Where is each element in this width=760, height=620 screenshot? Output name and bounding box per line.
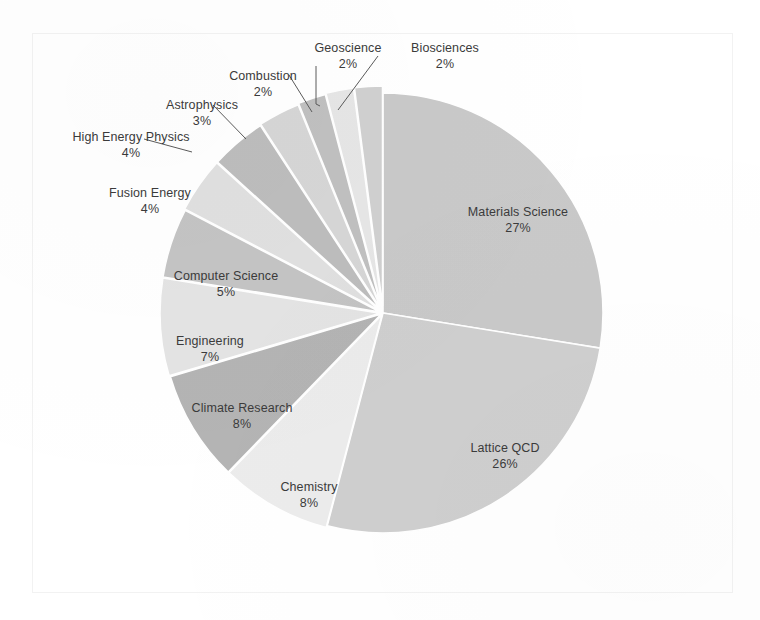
pie-label-percent: 5% <box>158 284 294 300</box>
pie-label-fusion-energy: Fusion Energy4% <box>92 185 208 217</box>
pie-label-climate-research: Climate Research8% <box>172 400 312 432</box>
pie-label-name: Lattice QCD <box>450 440 560 456</box>
pie-label-percent: 8% <box>172 416 312 432</box>
pie-label-astrophysics: Astrophysics3% <box>150 97 254 129</box>
pie-label-name: Climate Research <box>172 400 312 416</box>
pie-label-percent: 4% <box>92 201 208 217</box>
pie-label-combustion: Combustion2% <box>215 68 311 100</box>
pie-label-percent: 8% <box>257 495 361 511</box>
pie-label-name: Chemistry <box>257 479 361 495</box>
pie-label-percent: 2% <box>300 56 396 72</box>
pie-label-percent: 26% <box>450 456 560 472</box>
pie-label-percent: 4% <box>57 145 205 161</box>
pie-label-name: Engineering <box>157 333 263 349</box>
pie-label-percent: 27% <box>450 220 586 236</box>
pie-label-percent: 2% <box>396 56 494 72</box>
pie-label-high-energy-physics: High Energy Physics4% <box>57 129 205 161</box>
pie-label-name: Combustion <box>215 68 311 84</box>
pie-label-name: Fusion Energy <box>92 185 208 201</box>
pie-label-name: High Energy Physics <box>57 129 205 145</box>
pie-label-biosciences: Biosciences2% <box>396 40 494 72</box>
pie-label-name: Biosciences <box>396 40 494 56</box>
pie-label-computer-science: Computer Science5% <box>158 268 294 300</box>
pie-chart-svg <box>0 0 760 620</box>
pie-label-lattice-qcd: Lattice QCD26% <box>450 440 560 472</box>
pie-label-engineering: Engineering7% <box>157 333 263 365</box>
pie-label-percent: 7% <box>157 349 263 365</box>
pie-label-name: Geoscience <box>300 40 396 56</box>
pie-label-chemistry: Chemistry8% <box>257 479 361 511</box>
pie-label-name: Materials Science <box>450 204 586 220</box>
pie-label-name: Astrophysics <box>150 97 254 113</box>
pie-label-percent: 3% <box>150 113 254 129</box>
pie-label-name: Computer Science <box>158 268 294 284</box>
pie-label-materials-science: Materials Science27% <box>450 204 586 236</box>
pie-label-geoscience: Geoscience2% <box>300 40 396 72</box>
pie-chart-page: Geoscience2%Biosciences2%Combustion2%Ast… <box>0 0 760 620</box>
